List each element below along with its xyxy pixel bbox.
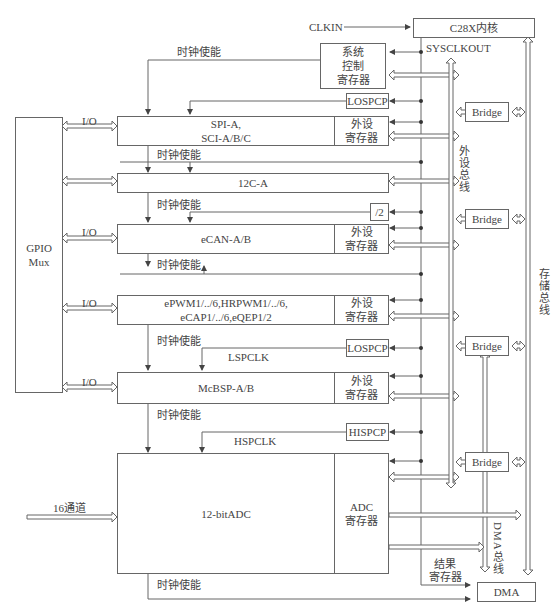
lospcp-prescaler: LOSPCP (346, 339, 389, 357)
io-label-ecan: I/O (82, 226, 97, 239)
bridge: Bridge (465, 336, 509, 356)
module-adc: 12-bitADC (117, 453, 335, 574)
module-ecan: eCAN-A/B (117, 224, 335, 254)
io-label-mcbsp: I/O (82, 376, 97, 389)
periph-reg-epwm: 外设寄存器 (334, 295, 389, 325)
result-register-label: 结果 寄存器 (425, 558, 465, 584)
c28x-core-box: C28X内核 (413, 18, 535, 38)
adc-input-label: 16通道 (53, 502, 86, 515)
lospcp-prescaler: LOSPCP (346, 93, 389, 109)
sysclkout-label: SYSCLKOUT (426, 42, 491, 55)
clock-enable-label: 时钟使能 (157, 335, 201, 348)
gpio-mux: GPIO Mux (15, 117, 63, 393)
clock-enable-label: 时钟使能 (157, 199, 201, 212)
bridge: Bridge (465, 452, 509, 472)
module-epwm-ecap-eqep: ePWM1/../6,HRPWM1/../6, eCAP1/../6,eQEP1… (117, 295, 335, 325)
clock-enable-label: 时钟使能 (157, 579, 201, 592)
clock-enable-label: 时钟使能 (177, 46, 221, 59)
peripheral-bus-label: 外设总线 (456, 145, 472, 193)
dma-box: DMA (477, 582, 536, 602)
periph-reg-ecan: 外设寄存器 (334, 224, 389, 254)
bridge: Bridge (465, 209, 509, 229)
system-control-register: 系统 控制 寄存器 (320, 43, 386, 89)
clock-enable-label: 时钟使能 (157, 409, 201, 422)
periph-reg-mcbsp: 外设寄存器 (334, 372, 389, 404)
memory-bus-label: 存储总线 (536, 268, 552, 316)
lspclk-label: LSPCLK (228, 351, 269, 364)
clock-enable-label: 时钟使能 (157, 259, 201, 272)
io-label-spi: I/O (82, 115, 97, 128)
bridge: Bridge (465, 102, 509, 122)
core-label: C28X内核 (450, 21, 498, 35)
module-mcbsp: McBSP-A/B (117, 372, 335, 404)
module-i2c: 12C-A (117, 173, 389, 193)
clock-enable-label: 时钟使能 (157, 149, 201, 162)
adc-register: ADC寄存器 (334, 453, 389, 574)
clkin-label: CLKIN (309, 21, 343, 34)
hispcp-prescaler: HISPCP (346, 423, 389, 441)
div2-prescaler: /2 (370, 203, 389, 221)
module-spi-sci: SPI-A, SCI-A/B/C (117, 116, 335, 146)
io-label-epwm: I/O (82, 297, 97, 310)
periph-reg-spi: 外设寄存器 (334, 116, 389, 146)
hspclk-label: HSPCLK (234, 435, 276, 448)
dma-bus-label: DMA总线 (490, 522, 506, 575)
